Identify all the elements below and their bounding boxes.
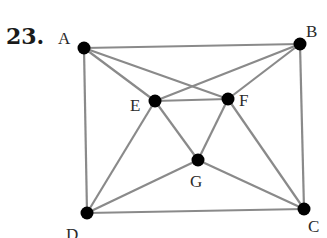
vertex-D xyxy=(81,207,94,220)
edge-EG xyxy=(155,101,198,160)
problem-number: 23. xyxy=(6,23,44,49)
vertex-label-E: E xyxy=(130,96,140,115)
graph-diagram: 23. ABCDEFG xyxy=(0,0,327,238)
edge-BE xyxy=(155,44,300,101)
vertex-label-D: D xyxy=(66,225,78,238)
vertex-B xyxy=(294,38,307,51)
vertex-label-C: C xyxy=(308,217,319,236)
edge-FG xyxy=(198,99,228,160)
edge-BC xyxy=(300,44,304,209)
vertex-E xyxy=(149,95,162,108)
vertex-label-F: F xyxy=(239,91,248,110)
edge-AB xyxy=(84,44,300,48)
vertex-F xyxy=(222,93,235,106)
vertex-C xyxy=(298,203,311,216)
vertex-G xyxy=(192,154,205,167)
edge-CD xyxy=(87,209,304,213)
vertex-A xyxy=(78,42,91,55)
edge-EF xyxy=(155,99,228,101)
vertex-label-B: B xyxy=(306,22,317,41)
vertex-label-A: A xyxy=(58,29,71,48)
edge-AD xyxy=(84,48,87,213)
vertex-labels: ABCDEFG xyxy=(58,22,319,238)
edge-AE xyxy=(84,48,155,101)
vertex-label-G: G xyxy=(190,172,202,191)
edge-AF xyxy=(84,48,228,99)
graph-vertices xyxy=(78,38,311,220)
